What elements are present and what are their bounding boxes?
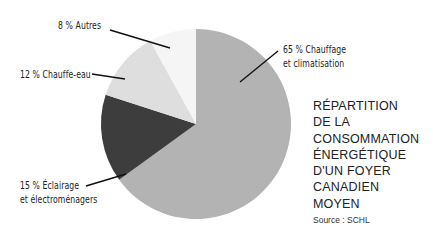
title-line: D'UN FOYER [313,163,419,179]
label-eclairage-line2: et électroménagers [20,192,97,206]
title-line: MOYEN [313,196,419,212]
label-chauffage-line2: et climatisation [283,56,344,70]
title-line: RÉPARTITION [313,98,419,114]
title-line: ÉNERGÉTIQUE [313,147,419,163]
label-chauffage-line1: 65 % Chauffage [283,42,346,56]
label-eclairage-line1: 15 % Éclairage [20,178,79,192]
title-line: DE LA [313,114,419,130]
label-chauffe-eau: 12 % Chauffe-eau [20,67,91,81]
chart-title: RÉPARTITION DE LA CONSOMMATION ÉNERGÉTIQ… [313,98,419,212]
title-line: CANADIEN [313,179,419,195]
source-note: Source : SCHL [313,215,370,225]
title-line: CONSOMMATION [313,131,419,147]
label-autres: 8 % Autres [58,18,101,32]
